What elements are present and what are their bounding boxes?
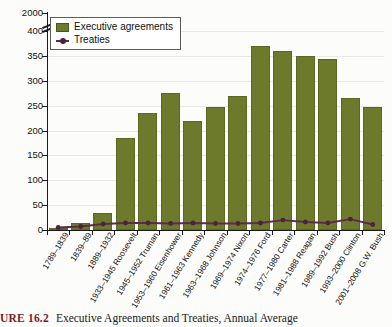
y-axis-tick-label: 100 <box>27 176 43 186</box>
treaties-data-point[interactable] <box>78 224 83 229</box>
treaties-data-point[interactable] <box>281 218 286 223</box>
treaties-data-point[interactable] <box>303 220 308 225</box>
figure-caption-number: URE 16.2 <box>0 312 49 324</box>
y-axis-tick-label: 250 <box>27 101 43 111</box>
treaties-data-point[interactable] <box>348 217 353 222</box>
treaties-data-point[interactable] <box>236 221 241 226</box>
treaties-data-point[interactable] <box>168 221 173 226</box>
treaties-data-point[interactable] <box>213 221 218 226</box>
treaties-data-point[interactable] <box>325 221 330 226</box>
executive-agreements-swatch-icon <box>56 23 69 32</box>
y-axis-tick-label: 2000 <box>22 8 43 18</box>
figure-caption-text: Executive Agreements and Treaties, Annua… <box>56 312 298 324</box>
treaties-data-point[interactable] <box>370 222 375 227</box>
x-axis-labels-group: 1789–18391839–891889–19321933–1945 Roose… <box>0 231 392 306</box>
y-axis-tick-label: 50 <box>32 200 43 210</box>
chart-legend: Executive agreements Treaties <box>50 17 181 50</box>
treaties-data-point[interactable] <box>191 221 196 226</box>
treaties-data-point[interactable] <box>258 221 263 226</box>
y-axis-tick-label: 150 <box>27 151 43 161</box>
treaties-data-point[interactable] <box>101 222 106 227</box>
y-axis-tick-label: 350 <box>27 51 43 61</box>
treaties-swatch-icon <box>56 36 69 45</box>
y-axis-tick-label: 200 <box>27 126 43 136</box>
x-axis-label: 1789–1839 <box>41 231 70 271</box>
treaties-data-point[interactable] <box>123 221 128 226</box>
figure-container: 0501001502002503003504002000 1789–183918… <box>0 0 392 327</box>
legend-item-treaties: Treaties <box>56 34 173 46</box>
legend-item-executive-agreements: Executive agreements <box>56 21 173 33</box>
legend-label-executive-agreements: Executive agreements <box>74 22 173 32</box>
figure-caption: URE 16.2Executive Agreements and Treatie… <box>0 312 392 327</box>
legend-label-treaties: Treaties <box>74 35 110 45</box>
y-axis-tick-label: 400 <box>27 26 43 36</box>
y-axis-tick-label: 300 <box>27 76 43 86</box>
treaties-data-point[interactable] <box>146 221 151 226</box>
